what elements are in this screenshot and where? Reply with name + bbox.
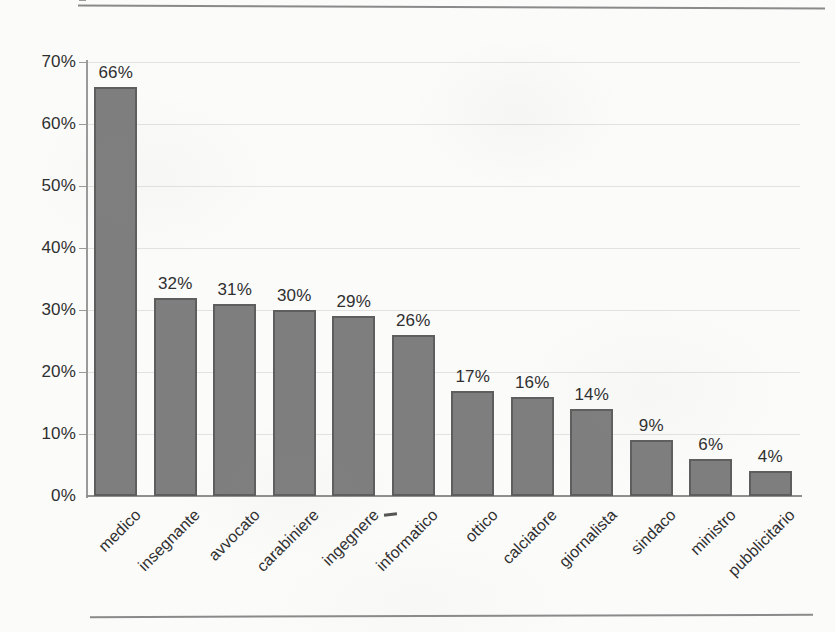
x-axis-category-label: medico	[95, 506, 145, 556]
y-axis-tick	[79, 0, 86, 1]
x-axis-category-label: carabiniere	[253, 506, 322, 575]
y-axis-tick	[79, 310, 86, 311]
x-axis-category-label: ministro	[687, 506, 740, 559]
x-axis-category-label: giornalista	[555, 506, 620, 571]
scanned-page: 0%10%20%30%40%50%60%70% 66%32%31%30%29%2…	[0, 0, 835, 632]
x-axis-category-label: insegnante	[135, 506, 204, 575]
y-axis-tick	[79, 62, 86, 63]
y-axis-tick	[79, 434, 86, 435]
x-axis-category-label: ottico	[461, 506, 501, 546]
x-axis-category-label: sindaco	[628, 506, 680, 558]
x-axis-category-label: avvocato	[205, 506, 264, 565]
y-axis-tick	[79, 186, 86, 187]
bar-chart: 0%10%20%30%40%50%60%70% 66%32%31%30%29%2…	[0, 0, 835, 632]
y-axis-tick	[79, 124, 86, 125]
x-axis-category-label: calciatore	[499, 506, 561, 568]
x-axis-category-labels: medicoinsegnanteavvocatocarabiniereingeg…	[0, 0, 835, 632]
y-axis-tick	[79, 248, 86, 249]
y-axis-tick	[79, 372, 86, 373]
